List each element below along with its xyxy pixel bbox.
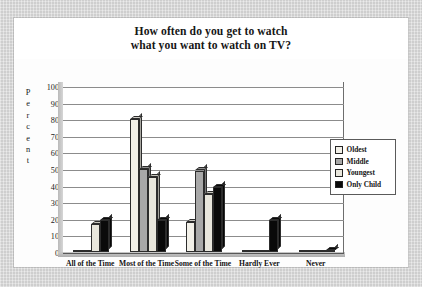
- bar-front-face: [195, 171, 204, 252]
- bar-group-1: [119, 87, 175, 252]
- bar-3-3: [269, 86, 278, 252]
- bar-2-2: [204, 86, 213, 252]
- legend-swatch-icon: [335, 181, 343, 189]
- bar-4-1: [308, 86, 317, 252]
- chart-screenshot: How often do you get to watch what you w…: [0, 0, 422, 287]
- bar-0-1: [82, 86, 91, 252]
- bar-3-2: [260, 86, 269, 252]
- y-axis-label-letter-5: n: [26, 144, 30, 155]
- bar-3-0: [242, 86, 251, 252]
- bar-group-0: [63, 87, 119, 252]
- bar-front-face: [100, 220, 109, 252]
- y-axis-tick-labels: 1009080706050403020100: [34, 87, 60, 253]
- legend-label: Only Child: [347, 180, 382, 189]
- legend-item-3[interactable]: Only Child: [335, 179, 391, 191]
- bar-side-face: [222, 181, 225, 249]
- gridline-0: [63, 253, 344, 254]
- bar-front-face: [317, 250, 326, 252]
- bar-1-2: [148, 86, 157, 252]
- bar-4-2: [317, 86, 326, 252]
- legend-item-1[interactable]: Middle: [335, 156, 391, 168]
- bar-front-face: [186, 222, 195, 252]
- bar-front-face: [157, 220, 166, 252]
- y-axis-label: Percent: [22, 87, 34, 167]
- legend-item-0[interactable]: Oldest: [335, 144, 391, 156]
- x-tick-label-4: Never: [282, 259, 350, 269]
- bar-3-1: [251, 86, 260, 252]
- chart-title-line-2: what you want to watch on TV?: [131, 39, 292, 53]
- bar-4-0: [299, 86, 308, 252]
- legend-label: Middle: [347, 157, 369, 166]
- bar-front-face: [326, 250, 335, 252]
- legend-label: Youngest: [347, 168, 375, 177]
- chart-area: Percent 1009080706050403020100 All of th…: [14, 59, 408, 267]
- y-axis-label-letter-6: t: [27, 155, 29, 166]
- bar-0-0: [73, 86, 82, 252]
- bar-0-3: [100, 86, 109, 252]
- chart-title-line-1: How often do you get to watch: [135, 25, 288, 39]
- bar-front-face: [308, 250, 317, 252]
- y-axis-label-letter-0: P: [26, 87, 31, 98]
- bar-front-face: [82, 250, 91, 252]
- bar-front-face: [148, 177, 157, 252]
- bar-2-0: [186, 86, 195, 252]
- bar-front-face: [242, 250, 251, 252]
- chart-panel: How often do you get to watch what you w…: [14, 18, 408, 267]
- bar-front-face: [91, 224, 100, 252]
- bar-series-container: [63, 87, 344, 252]
- bar-front-face: [299, 250, 308, 252]
- plot-area: [62, 87, 344, 253]
- bar-front-face: [269, 220, 278, 252]
- bar-group-2: [176, 87, 232, 252]
- bar-1-1: [139, 86, 148, 252]
- y-axis-label-letter-4: e: [26, 133, 30, 144]
- chart-legend: OldestMiddleYoungestOnly Child: [330, 139, 396, 195]
- bar-1-3: [157, 86, 166, 252]
- bar-front-face: [260, 250, 269, 252]
- bar-front-face: [213, 187, 222, 252]
- y-axis-label-letter-2: r: [27, 110, 30, 121]
- legend-swatch-icon: [335, 146, 343, 154]
- bar-front-face: [73, 250, 82, 252]
- bar-group-3: [232, 87, 288, 252]
- legend-swatch-icon: [335, 158, 343, 166]
- bar-2-1: [195, 86, 204, 252]
- bar-front-face: [139, 169, 148, 252]
- bar-front-face: [130, 119, 139, 252]
- bar-0-2: [91, 86, 100, 252]
- legend-item-2[interactable]: Youngest: [335, 167, 391, 179]
- x-axis-tick-labels: All of the TimeMost of the TimeSome of t…: [62, 257, 344, 287]
- legend-label: Oldest: [347, 145, 367, 154]
- chart-title: How often do you get to watch what you w…: [14, 18, 408, 59]
- bar-2-3: [213, 86, 222, 252]
- y-axis-label-letter-3: c: [26, 121, 30, 132]
- bar-front-face: [204, 194, 213, 252]
- bar-front-face: [251, 250, 260, 252]
- y-axis-label-letter-1: e: [26, 98, 30, 109]
- legend-swatch-icon: [335, 169, 343, 177]
